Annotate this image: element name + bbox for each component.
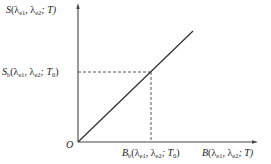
linear-relation-diagram: O S(λe1, λe2; T) Sb(λe1, λe2; T0) Bb(λe1… bbox=[0, 0, 271, 164]
x-marker-label: Bb(λe1, λe2; T0) bbox=[122, 147, 180, 159]
x-axis-arrow-icon bbox=[252, 140, 258, 143]
linear-relation-line bbox=[78, 31, 193, 142]
y-axis-label: S(λe1, λe2; T) bbox=[6, 4, 57, 16]
y-marker-label: Sb(λe1, λe2; T0) bbox=[2, 66, 59, 78]
origin-label: O bbox=[66, 139, 73, 150]
y-axis-arrow-icon bbox=[76, 3, 79, 9]
x-axis-label: B(λe1, λe2; T) bbox=[202, 147, 254, 159]
